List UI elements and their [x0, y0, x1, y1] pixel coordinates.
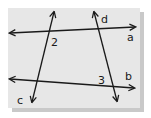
transversal-diagram: a b c d 2 3	[0, 0, 151, 118]
diagram-stage: a b c d 2 3	[0, 0, 151, 118]
label-angle-2: 2	[51, 36, 58, 49]
label-line-c: c	[17, 94, 23, 107]
label-line-b: b	[125, 70, 132, 83]
label-angle-3: 3	[98, 74, 105, 87]
label-line-a: a	[127, 31, 134, 44]
card-background	[8, 8, 140, 108]
label-line-d: d	[101, 13, 108, 26]
